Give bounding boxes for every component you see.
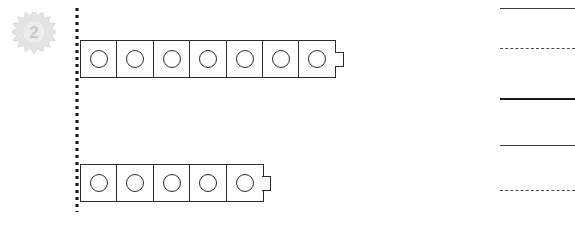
cube-circle-icon: [272, 50, 290, 68]
worksheet-page: 2: [0, 0, 575, 230]
cube-circle-icon: [90, 174, 108, 192]
cube-circle-icon: [199, 50, 217, 68]
cube: [189, 40, 227, 78]
answer-line-3: [500, 98, 575, 100]
cube: [116, 164, 154, 202]
cube-circle-icon: [236, 174, 254, 192]
cube-circle-icon: [236, 50, 254, 68]
cube: [153, 40, 191, 78]
cube: [226, 40, 264, 78]
answer-line-4: [500, 145, 575, 146]
cube-circle-icon: [308, 50, 326, 68]
vertical-dotted-guide-line: [75, 7, 79, 213]
sunburst-star-icon: 2: [12, 12, 56, 56]
cube-circle-icon: [163, 174, 181, 192]
cube: [262, 40, 300, 78]
answer-line-1: [500, 8, 575, 9]
cube: [298, 40, 336, 78]
problem-number-badge: 2: [12, 12, 56, 56]
top-train: [80, 40, 344, 78]
cube-circle-icon: [126, 50, 144, 68]
connector-nub: [262, 176, 271, 191]
cube: [80, 164, 118, 202]
bottom-train: [80, 164, 271, 202]
cube-circle-icon: [199, 174, 217, 192]
answer-line-5: [500, 190, 575, 191]
answer-line-2: [500, 48, 575, 49]
cube: [153, 164, 191, 202]
cube: [226, 164, 264, 202]
cube-circle-icon: [163, 50, 181, 68]
cube: [116, 40, 154, 78]
problem-number-label: 2: [29, 23, 38, 42]
cube-circle-icon: [90, 50, 108, 68]
cube: [189, 164, 227, 202]
connector-nub: [335, 52, 344, 67]
cube-circle-icon: [126, 174, 144, 192]
cube: [80, 40, 118, 78]
